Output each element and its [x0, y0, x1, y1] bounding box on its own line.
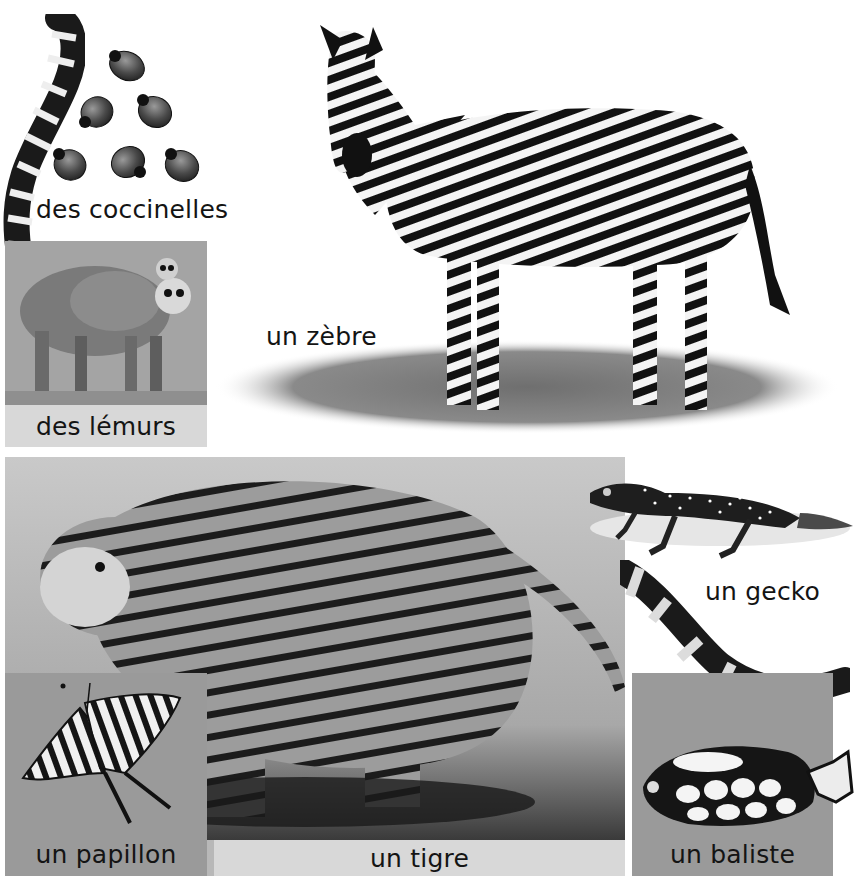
gecko-image: [585, 468, 853, 568]
tiger-caption-band: un tigre: [214, 840, 625, 876]
label-un-papillon: un papillon: [36, 840, 177, 869]
label-un-zebre: un zèbre: [266, 322, 377, 351]
label-un-gecko: un gecko: [705, 577, 820, 606]
grass-patch: [215, 340, 839, 434]
lemurs-image: [5, 241, 207, 405]
ladybird: [50, 46, 204, 187]
zebra-image: [215, 15, 840, 445]
label-des-lemurs: des lémurs: [36, 412, 176, 441]
label-un-tigre: un tigre: [370, 844, 469, 873]
butterfly-image: [5, 673, 207, 833]
ladybirds-image: [45, 40, 210, 195]
butterfly-panel: un papillon: [5, 673, 207, 876]
lemurs-panel: des lémurs: [5, 241, 207, 447]
triggerfish-image: [638, 732, 854, 832]
label-des-coccinelles: des coccinelles: [36, 195, 228, 224]
lemurs-caption-band: des lémurs: [5, 405, 207, 447]
label-un-baliste: un baliste: [670, 840, 795, 869]
